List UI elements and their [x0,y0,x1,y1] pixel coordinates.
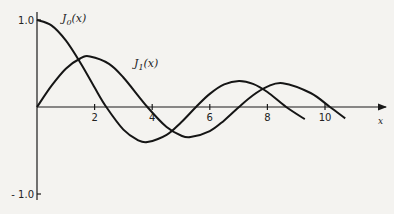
y-tick-label: - 1.0 [11,189,34,200]
bessel-chart: 2468101.0- 1.0 J0(x)J1(x)x [0,0,394,214]
series-label-0: J0(x) [60,12,86,27]
axes [37,12,386,200]
x-tick-label: 10 [319,112,332,123]
series-label-1: J1(x) [132,57,158,72]
x-tick-label: 2 [91,112,97,123]
x-axis-label: x [378,116,383,126]
y-tick-label: 1.0 [18,15,34,26]
curves [37,20,345,142]
series-0-curve [37,20,305,142]
x-tick-label: 6 [207,112,213,123]
x-tick-label: 8 [264,112,270,123]
